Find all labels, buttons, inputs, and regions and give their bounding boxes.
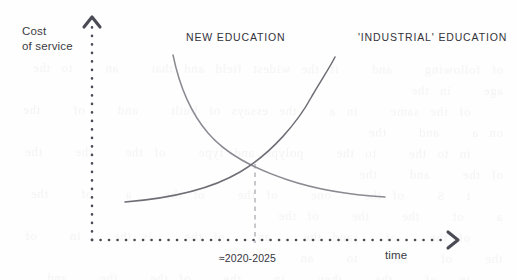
arrow-right-icon xyxy=(448,232,458,248)
crossover-annotation-label: ≈2020-2025 xyxy=(219,252,276,264)
curve-new-education xyxy=(173,55,385,197)
arrow-up-icon xyxy=(84,17,100,27)
y-axis-label: Cost of service xyxy=(22,24,73,54)
figure-canvas: of following and if the widest field and… xyxy=(0,0,517,280)
series-label-new-education: NEW EDUCATION xyxy=(186,31,286,43)
x-axis-label: time xyxy=(385,249,407,261)
curve-industrial-education xyxy=(125,57,335,202)
series-label-industrial-education: 'INDUSTRIAL' EDUCATION xyxy=(358,31,507,43)
